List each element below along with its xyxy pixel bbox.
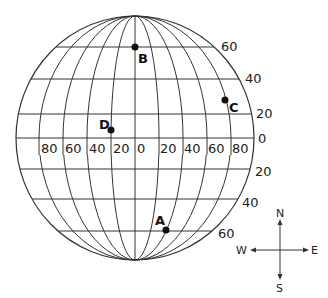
lon-label-e80: 80 [232, 141, 249, 156]
point-b-marker [132, 44, 139, 51]
point-d: D [99, 117, 115, 134]
point-c-label: C [229, 100, 239, 115]
compass-rose: N S E W [236, 207, 318, 295]
compass-e-label: E [311, 244, 318, 257]
lon-label-0: 0 [137, 141, 145, 156]
lat-label-20n: 20 [256, 106, 273, 121]
lon-label-e60: 60 [208, 141, 225, 156]
lat-label-0: 0 [258, 131, 266, 146]
lat-label-60s: 60 [218, 226, 235, 241]
lon-label-e20: 20 [160, 141, 177, 156]
compass-w-label: W [236, 244, 247, 257]
compass-n-label: N [276, 207, 284, 220]
lat-label-40s: 40 [242, 195, 259, 210]
lat-label-40n: 40 [245, 71, 262, 86]
point-c-marker [222, 97, 229, 104]
arrow-east-icon [303, 248, 309, 253]
lon-label-e40: 40 [184, 141, 201, 156]
lon-label-w20: 20 [113, 141, 130, 156]
longitude-labels: 80 60 40 20 0 20 40 60 80 [28, 139, 249, 156]
lat-label-20s: 20 [255, 164, 272, 179]
point-b-label: B [138, 51, 148, 66]
lon-label-w80: 80 [41, 141, 58, 156]
point-a: A [155, 213, 170, 234]
lat-label-60n: 60 [221, 39, 238, 54]
point-c: C [222, 97, 239, 116]
point-a-label: A [155, 213, 165, 228]
arrow-south-icon [278, 274, 283, 280]
point-d-label: D [99, 117, 110, 132]
arrow-west-icon [250, 248, 256, 253]
lon-label-w60: 60 [65, 141, 82, 156]
compass-s-label: S [276, 282, 283, 295]
globe-diagram: 80 60 40 20 0 20 40 60 80 60 40 20 0 20 … [0, 0, 328, 298]
lon-label-w40: 40 [89, 141, 106, 156]
